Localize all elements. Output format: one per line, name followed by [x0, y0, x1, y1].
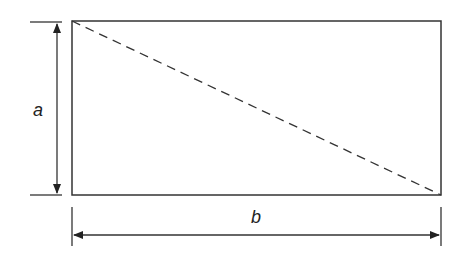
width-label: b — [251, 207, 261, 227]
rectangle-dimension-diagram: a b — [0, 0, 456, 253]
diagonal-dashed-line — [72, 21, 441, 195]
height-label: a — [33, 100, 43, 120]
